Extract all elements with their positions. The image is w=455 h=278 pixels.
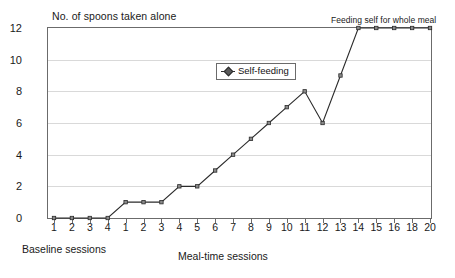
plot-area xyxy=(47,27,432,219)
y-tick-label: 10 xyxy=(0,54,22,66)
data-point-marker xyxy=(357,26,360,29)
y-tick-label: 0 xyxy=(0,212,22,224)
x-axis-caption-mealtime: Meal-time sessions xyxy=(178,250,268,262)
x-tick-label: 1 xyxy=(123,221,129,233)
x-tick-label: 4 xyxy=(105,221,111,233)
x-tick-label: 16 xyxy=(388,221,400,233)
data-point-marker xyxy=(267,121,270,124)
series-line xyxy=(54,28,430,218)
x-tick-label: 5 xyxy=(194,221,200,233)
data-point-marker xyxy=(321,121,324,124)
x-tick-label: 18 xyxy=(406,221,418,233)
x-axis-tick-labels: 1234123456789101112131415161820 xyxy=(47,221,432,237)
x-tick-label: 15 xyxy=(370,221,382,233)
x-tick-label: 1 xyxy=(51,221,57,233)
x-axis-caption-baseline: Baseline sessions xyxy=(22,243,106,255)
x-tick-label: 4 xyxy=(176,221,182,233)
chart-legend: Self-feeding xyxy=(216,63,296,80)
data-point-marker xyxy=(249,137,252,140)
data-point-marker xyxy=(285,105,288,108)
x-tick-label: 3 xyxy=(87,221,93,233)
y-tick-label: 6 xyxy=(0,117,22,129)
chart-figure: No. of spoons taken alone Feeding self f… xyxy=(0,0,455,278)
data-point-marker xyxy=(142,200,145,203)
x-tick-label: 12 xyxy=(317,221,329,233)
data-point-marker xyxy=(196,185,199,188)
x-tick-label: 14 xyxy=(353,221,365,233)
data-point-marker xyxy=(88,216,91,219)
data-point-marker xyxy=(339,74,342,77)
x-tick-label: 3 xyxy=(159,221,165,233)
data-point-marker xyxy=(160,200,163,203)
series-self-feeding xyxy=(47,27,432,219)
y-tick-label: 4 xyxy=(0,149,22,161)
data-point-marker xyxy=(213,169,216,172)
data-point-marker xyxy=(375,26,378,29)
x-tick-label: 6 xyxy=(212,221,218,233)
y-axis-title: No. of spoons taken alone xyxy=(52,10,177,22)
x-tick-label: 9 xyxy=(266,221,272,233)
data-point-marker xyxy=(124,200,127,203)
y-tick-label: 8 xyxy=(0,85,22,97)
x-tick-label: 20 xyxy=(424,221,436,233)
legend-label-self-feeding: Self-feeding xyxy=(238,66,289,76)
x-tick-label: 7 xyxy=(230,221,236,233)
data-point-marker xyxy=(52,216,55,219)
x-tick-label: 13 xyxy=(335,221,347,233)
data-point-marker xyxy=(428,26,431,29)
data-point-marker xyxy=(70,216,73,219)
data-point-marker xyxy=(178,185,181,188)
y-axis-tick-labels: 024681012 xyxy=(0,27,44,219)
x-tick-label: 10 xyxy=(281,221,293,233)
x-tick-label: 2 xyxy=(141,221,147,233)
x-tick-label: 2 xyxy=(69,221,75,233)
chart-annotation-feeding-self: Feeding self for whole meal xyxy=(331,15,436,25)
x-tick-label: 11 xyxy=(299,221,310,233)
data-point-marker xyxy=(231,153,234,156)
data-point-marker xyxy=(410,26,413,29)
y-tick-label: 2 xyxy=(0,180,22,192)
data-point-marker xyxy=(106,216,109,219)
x-tick-label: 8 xyxy=(248,221,254,233)
legend-marker-icon xyxy=(221,67,235,75)
data-point-marker xyxy=(392,26,395,29)
y-tick-label: 12 xyxy=(0,22,22,34)
data-point-marker xyxy=(303,90,306,93)
